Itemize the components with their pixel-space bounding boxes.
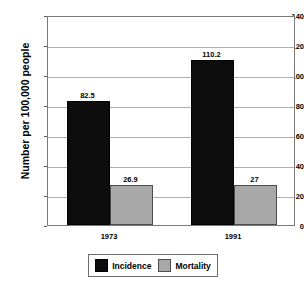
mortality-swatch-icon [158, 259, 171, 272]
x-category-label: 1973 [64, 232, 154, 241]
y-tick-mark [44, 226, 47, 227]
y-axis-title: Number per 100,000 people [19, 16, 31, 206]
legend-item-incidence: Incidence [95, 259, 151, 272]
gridline [48, 47, 294, 48]
legend-item-mortality: Mortality [158, 259, 210, 272]
bar-mortality-1973 [110, 185, 153, 225]
bar-value-label: 110.2 [182, 50, 242, 59]
plot-area [47, 16, 295, 226]
bar-incidence-1973 [67, 101, 110, 225]
bar-value-label: 27 [225, 175, 285, 184]
gridline [48, 77, 294, 78]
bar-incidence-1991 [191, 60, 234, 225]
legend-label-incidence: Incidence [112, 261, 151, 271]
legend: Incidence Mortality [88, 254, 218, 277]
bar-value-label: 82.5 [58, 91, 118, 100]
bar-value-label: 26.9 [101, 175, 161, 184]
x-category-label: 1991 [188, 232, 278, 241]
bar-chart: Number per 100,000 people 02040608010012… [0, 0, 304, 282]
bar-mortality-1991 [234, 185, 277, 226]
incidence-swatch-icon [95, 259, 108, 272]
legend-label-mortality: Mortality [175, 261, 210, 271]
